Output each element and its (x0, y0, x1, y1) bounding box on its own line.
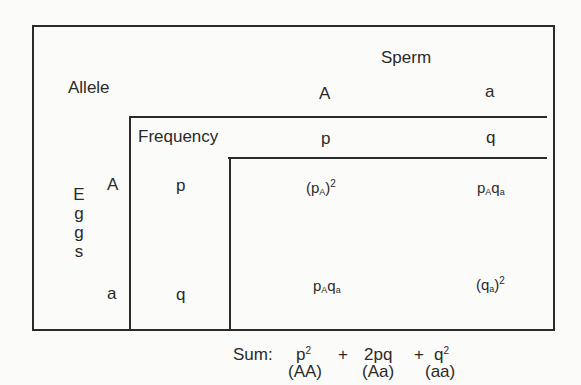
sum-equation: Sum: p2 + 2pq + q2 (AA) (Aa) (aa) (0, 0, 581, 385)
sum-label: Sum: (233, 346, 273, 363)
genotype-aa: (aa) (425, 363, 455, 380)
sum-term-1: p2 (296, 346, 311, 363)
sum-term-2: 2pq (364, 346, 392, 363)
genotype-Aa: (Aa) (362, 363, 394, 380)
sum-term-3: q2 (434, 346, 449, 363)
genotype-AA: (AA) (288, 363, 322, 380)
plus-sign-1: + (338, 346, 348, 363)
plus-sign-2: + (414, 346, 424, 363)
